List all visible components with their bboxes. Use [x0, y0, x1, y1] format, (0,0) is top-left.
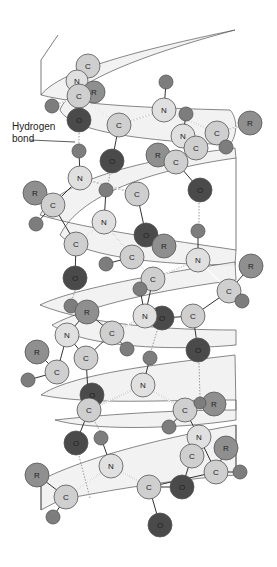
side-chain-atom: R — [214, 436, 238, 460]
atom-symbol: O — [72, 274, 78, 283]
nitrogen-atom: N — [131, 373, 155, 397]
hydrogen-atom-sphere — [191, 224, 205, 238]
atom-symbol: C — [213, 468, 219, 477]
hydrogen-atom-sphere — [219, 140, 233, 154]
atom-symbol: R — [32, 189, 38, 198]
hydrogen-atom-sphere — [72, 144, 86, 158]
atom-symbol: O — [76, 116, 82, 125]
hydrogen-atom — [233, 465, 247, 479]
oxygen-atom: O — [148, 513, 172, 537]
atom-symbol: C — [226, 287, 232, 296]
carbon-atom: C — [180, 444, 204, 468]
atom-symbol: O — [73, 439, 79, 448]
nitrogen-atom: N — [68, 166, 92, 190]
carbon-atom: C — [120, 245, 144, 269]
atom-symbol: C — [193, 144, 199, 153]
hydrogen-atom-sphere — [21, 373, 35, 387]
hydrogen-atom-sphere — [29, 217, 43, 231]
carbon-atom: C — [77, 398, 101, 422]
atom-symbol: N — [161, 106, 167, 115]
hydrogen-atom — [94, 431, 108, 445]
hydrogen-atom — [99, 257, 113, 271]
atom-symbol: R — [161, 242, 167, 251]
atom-symbol: N — [195, 256, 201, 265]
hydrogen-atom-sphere — [143, 351, 157, 365]
carbon-atom: C — [137, 475, 161, 499]
atom-symbol: C — [86, 406, 92, 415]
carbon-atom: C — [100, 321, 124, 345]
hydrogen-atom — [191, 224, 205, 238]
atom-symbol: R — [247, 119, 253, 128]
atom-symbol: O — [159, 314, 165, 323]
hydrogen-bond-annotation: Hydrogen bond — [12, 121, 55, 145]
atom-symbol: O — [143, 231, 149, 240]
atom-symbol: N — [196, 433, 202, 442]
atom-symbol: N — [108, 462, 114, 471]
hydrogen-atom-sphere — [159, 75, 173, 89]
hydrogen-atom-sphere — [94, 431, 108, 445]
atom-symbol: N — [142, 312, 148, 321]
carbon-atom: C — [184, 136, 208, 160]
atom-symbol: N — [180, 132, 186, 141]
carbon-atom: C — [41, 193, 65, 217]
hydrogen-atom — [120, 342, 134, 356]
atom-symbol: R — [155, 151, 161, 160]
atom-symbol: R — [211, 400, 217, 409]
atom-symbol: R — [34, 471, 40, 480]
atom-symbol: C — [50, 201, 56, 210]
alpha-helix-diagram: CNRCOCNCRNCRCOONRCCNORCNCRCOCRONCNCRCOCN… — [0, 0, 277, 567]
atom-symbol: C — [214, 129, 220, 138]
atom-symbol: R — [223, 444, 229, 453]
hydrogen-atom — [46, 510, 60, 524]
oxygen-atom: O — [188, 178, 212, 202]
hydrogen-atom-sphere — [99, 183, 113, 197]
atom-symbol: C — [109, 329, 115, 338]
carbon-atom: C — [181, 304, 205, 328]
atom-symbol: C — [83, 354, 89, 363]
nitrogen-atom: N — [92, 210, 116, 234]
hydrogen-atom-sphere — [133, 282, 147, 296]
atom-symbol: C — [173, 158, 179, 167]
hydrogen-atom — [162, 420, 176, 434]
nitrogen-atom: N — [133, 304, 157, 328]
carbon-atom: C — [45, 360, 69, 384]
hydrogen-atom-sphere — [45, 99, 59, 113]
atom-symbol: O — [197, 186, 203, 195]
annotation-line-1: Hydrogen — [12, 121, 55, 133]
oxygen-atom: O — [170, 475, 194, 499]
hydrogen-atom-sphere — [46, 510, 60, 524]
oxygen-atom: O — [64, 431, 88, 455]
carbon-atom: C — [125, 182, 149, 206]
hydrogen-atom — [29, 217, 43, 231]
atom-symbol: N — [77, 174, 83, 183]
atom-symbol: O — [195, 346, 201, 355]
carbon-atom: C — [204, 460, 228, 484]
oxygen-atom: O — [186, 338, 210, 362]
atom-symbol: C — [134, 190, 140, 199]
nitrogen-atom: N — [55, 323, 79, 347]
atom-symbol: N — [101, 218, 107, 227]
hydrogen-atom-sphere — [162, 420, 176, 434]
annotation-line-2: bond — [12, 133, 55, 145]
atom-symbol: O — [157, 521, 163, 530]
hydrogen-atom — [72, 144, 86, 158]
carbon-atom: C — [164, 150, 188, 174]
atom-symbol: N — [140, 381, 146, 390]
atom-symbol: N — [64, 331, 70, 340]
atom-symbol: C — [129, 253, 135, 262]
carbon-atom: C — [54, 485, 78, 509]
hydrogen-atom — [21, 373, 35, 387]
hydrogen-atom — [219, 140, 233, 154]
hydrogen-atom — [159, 75, 173, 89]
carbon-atom: C — [107, 113, 131, 137]
atom-symbol: C — [73, 240, 79, 249]
atom-symbol: C — [146, 483, 152, 492]
side-chain-atom: R — [238, 111, 262, 135]
hydrogen-atom-sphere — [233, 465, 247, 479]
atom-symbol: R — [248, 262, 254, 271]
carbon-atom: C — [74, 346, 98, 370]
hydrogen-atom-sphere — [99, 257, 113, 271]
atom-symbol: O — [109, 157, 115, 166]
atom-symbol: C — [63, 493, 69, 502]
hydrogen-atom — [99, 183, 113, 197]
